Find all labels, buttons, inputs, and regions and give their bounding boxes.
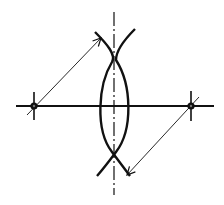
right-arc bbox=[97, 29, 135, 176]
right-endpoint bbox=[187, 91, 194, 121]
left-endpoint bbox=[30, 92, 37, 120]
left-radius-arrow bbox=[27, 38, 101, 115]
left-arc bbox=[95, 32, 130, 176]
right-radius-arrow bbox=[127, 97, 199, 175]
construction-diagram bbox=[0, 0, 224, 205]
diagram-svg bbox=[0, 0, 224, 205]
